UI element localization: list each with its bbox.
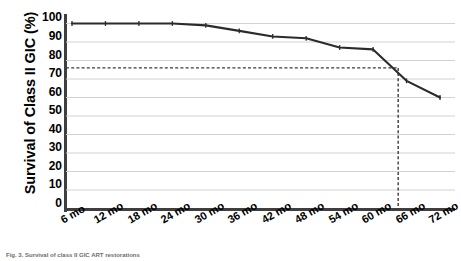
figure-caption: Fig. 3. Survival of class II GIC ART res… (6, 252, 456, 258)
x-tick-label: 30 mo (193, 200, 226, 225)
x-tick-label: 48 mo (293, 200, 326, 225)
x-tick-label: 72 mo (427, 200, 460, 225)
x-axis-tick-label-group: 6 mo12 mo18 mo24 mo30 mo36 mo42 mo48 mo5… (0, 0, 461, 261)
survival-chart-figure: Survival of Class II GIC (%) 100 90 80 7… (0, 0, 461, 261)
x-tick-label: 12 mo (92, 200, 125, 225)
x-tick-label: 66 mo (394, 200, 427, 225)
x-tick-label: 6 mo (59, 203, 87, 225)
x-tick-label: 36 mo (226, 200, 259, 225)
x-tick-label: 42 mo (260, 200, 293, 225)
x-tick-label: 24 mo (159, 200, 192, 225)
x-tick-label: 60 mo (360, 200, 393, 225)
x-tick-label: 54 mo (327, 200, 360, 225)
x-tick-label: 18 mo (126, 200, 159, 225)
